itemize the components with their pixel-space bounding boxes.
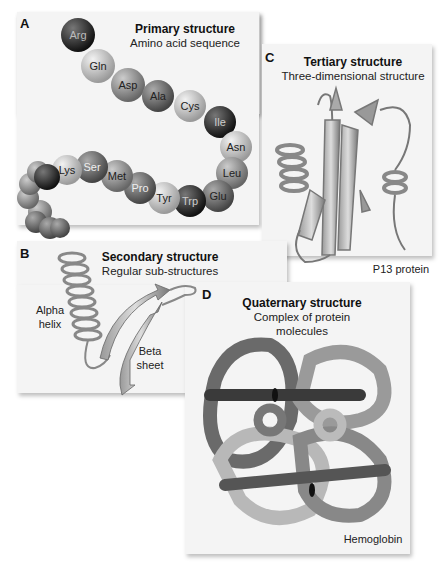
- tertiary-structure-title: Tertiary structure Three-dimensional str…: [278, 55, 428, 83]
- panel-letter-a: A: [20, 16, 29, 31]
- beta-label-line2: sheet: [130, 358, 170, 372]
- p13-protein-caption: P13 protein: [366, 262, 436, 276]
- aa-ile: Ile: [205, 115, 235, 129]
- aa-gln: Gln: [83, 59, 113, 73]
- tertiary-subtitle: Three-dimensional structure: [281, 70, 424, 82]
- beta-label-line1: Beta: [130, 344, 170, 358]
- quaternary-subtitle-line2: molecules: [232, 324, 372, 338]
- aa-arg: Arg: [63, 28, 93, 42]
- primary-structure-title: Primary structure Amino acid sequence: [115, 22, 255, 50]
- quaternary-subtitle-line1: Complex of protein: [232, 310, 372, 324]
- aa-trp: Trp: [175, 194, 205, 208]
- secondary-subtitle: Regular sub-structures: [102, 265, 218, 277]
- secondary-title: Secondary structure: [90, 250, 230, 264]
- primary-title: Primary structure: [115, 22, 255, 36]
- quaternary-structure-title: Quaternary structure Complex of protein …: [232, 296, 372, 338]
- aa-asn: Asn: [221, 140, 251, 154]
- panel-letter-d: D: [202, 287, 211, 302]
- tertiary-title: Tertiary structure: [278, 55, 428, 69]
- primary-subtitle: Amino acid sequence: [130, 37, 240, 49]
- alpha-label-line1: Alpha: [30, 303, 70, 317]
- secondary-structure-title: Secondary structure Regular sub-structur…: [90, 250, 230, 278]
- aa-ala: Ala: [143, 89, 173, 103]
- aa-asp: Asp: [113, 78, 143, 92]
- aa-lys: Lys: [52, 163, 82, 177]
- quaternary-title: Quaternary structure: [232, 296, 372, 310]
- alpha-label-line2: helix: [30, 317, 70, 331]
- panel-secondary-structure-lower: [17, 285, 187, 393]
- alpha-helix-label: Alpha helix: [30, 303, 70, 331]
- aa-cys: Cys: [175, 99, 205, 113]
- aa-glu: Glu: [203, 189, 233, 203]
- hemoglobin-caption: Hemoglobin: [338, 532, 408, 546]
- aa-leu: Leu: [217, 166, 247, 180]
- beta-sheet-label: Beta sheet: [130, 344, 170, 372]
- panel-letter-c: C: [265, 50, 274, 65]
- aa-pro: Pro: [125, 181, 155, 195]
- panel-letter-b: B: [20, 246, 29, 261]
